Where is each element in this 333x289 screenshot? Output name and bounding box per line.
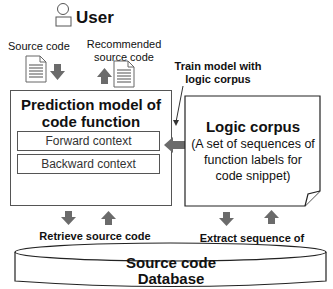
logic-corpus-desc-line1: (A set of sequences of [186, 136, 320, 152]
database-label-line1: Source code [14, 255, 328, 271]
arrow-left-icon [164, 137, 186, 153]
arrow-down-icon [50, 64, 65, 80]
logic-corpus-title: Logic corpus [186, 118, 320, 136]
prediction-model-title: Prediction model of code function [11, 96, 171, 130]
arrow-down-icon [61, 211, 76, 225]
document-icon [113, 60, 135, 88]
person-icon [54, 2, 74, 30]
arrow-up-icon [97, 68, 112, 84]
train-note-line1: Train model with [172, 60, 264, 73]
user-label: User [76, 8, 114, 28]
arrow-up-icon [101, 211, 116, 225]
arrow-down-icon [219, 212, 234, 226]
train-note: Train model with logic corpus [172, 60, 264, 86]
document-icon [25, 55, 47, 83]
prediction-model-title-line2: code function [11, 113, 171, 130]
logic-corpus-text: Logic corpus (A set of sequences of func… [186, 118, 320, 184]
backward-context-box: Backward context [17, 154, 160, 174]
recommended-label-line1: Recommended [85, 38, 163, 51]
database-label-line2: Database [14, 271, 328, 287]
database-label: Source code Database [14, 255, 328, 287]
train-note-line2: logic corpus [172, 73, 264, 86]
backward-context-label: Backward context [41, 157, 136, 171]
logic-corpus-desc-line2: function labels for [186, 152, 320, 168]
arrow-up-icon [264, 210, 279, 224]
prediction-model-title-line1: Prediction model of [11, 96, 171, 113]
logic-corpus-desc-line3: code snippet) [186, 168, 320, 184]
source-code-label: Source code [8, 40, 70, 52]
forward-context-label: Forward context [45, 134, 131, 148]
forward-context-box: Forward context [17, 131, 160, 151]
